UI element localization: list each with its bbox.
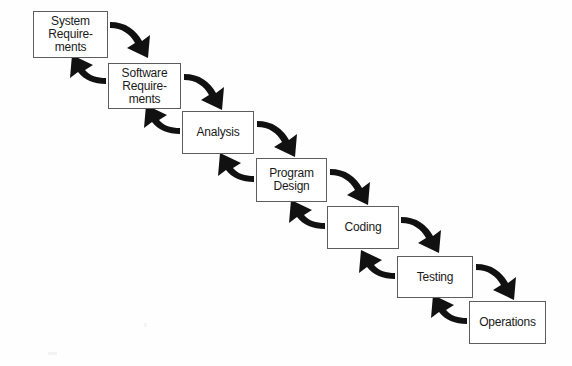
stage-label-system-requirements: System Require- ments: [48, 15, 92, 54]
arrow-coding-to-testing: [401, 217, 441, 253]
arrow-program-design-to-coding: [330, 169, 370, 205]
stage-label-analysis: Analysis: [196, 126, 239, 139]
arrow-analysis-to-software-requirements: [144, 105, 180, 134]
stage-label-coding: Coding: [345, 221, 382, 234]
stage-label-program-design: Program Design: [269, 167, 314, 193]
arrow-program-design-to-analysis: [218, 153, 254, 182]
arrow-operations-to-testing: [431, 295, 467, 324]
arrow-testing-to-operations: [476, 264, 516, 300]
stage-box-system-requirements[interactable]: System Require- ments: [33, 11, 108, 58]
arrow-system-requirements-to-software-requirements: [110, 22, 150, 58]
stage-box-coding[interactable]: Coding: [327, 206, 399, 249]
arrow-analysis-to-program-design: [257, 121, 297, 157]
arrow-software-requirements-to-analysis: [184, 74, 224, 110]
arrow-testing-to-coding: [359, 250, 395, 279]
arrow-software-requirements-to-system-requirements: [70, 55, 106, 84]
stage-box-testing[interactable]: Testing: [397, 256, 473, 298]
stage-label-software-requirements: Software Require- ments: [122, 67, 168, 106]
arrow-coding-to-program-design: [289, 200, 325, 229]
stage-box-software-requirements[interactable]: Software Require- ments: [108, 63, 181, 109]
stage-box-program-design[interactable]: Program Design: [256, 158, 327, 202]
stage-box-analysis[interactable]: Analysis: [182, 111, 254, 154]
stage-label-operations: Operations: [479, 316, 536, 329]
waterfall-diagram-canvas: System Require- ments Software Require- …: [0, 0, 572, 366]
stage-box-operations[interactable]: Operations: [469, 301, 546, 344]
stage-label-testing: Testing: [417, 271, 454, 284]
